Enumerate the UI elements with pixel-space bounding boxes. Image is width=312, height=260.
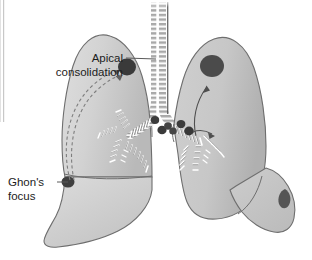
ghons-focus-label-line1: Ghon's [8,176,44,188]
right-apical-consolidation-lesion [200,55,224,77]
hilar-node-right-mid [184,127,194,136]
page-edge-artifact [0,0,4,122]
hilar-node-right-lower [169,127,177,134]
hilar-node-left-upper [151,116,159,124]
apical-consolidation-label-line1: Apical [92,52,123,64]
lung-tuberculosis-diagram: Apical consolidation Ghon's focus [0,0,312,260]
label-ghons-focus: Ghon's focus [8,176,68,202]
ghons-focus-label-line2: focus [8,190,36,202]
apical-consolidation-label-line2: consolidation [56,66,123,78]
figure-canvas: Apical consolidation Ghon's focus [0,0,312,260]
hilar-node-right-upper [177,120,186,128]
